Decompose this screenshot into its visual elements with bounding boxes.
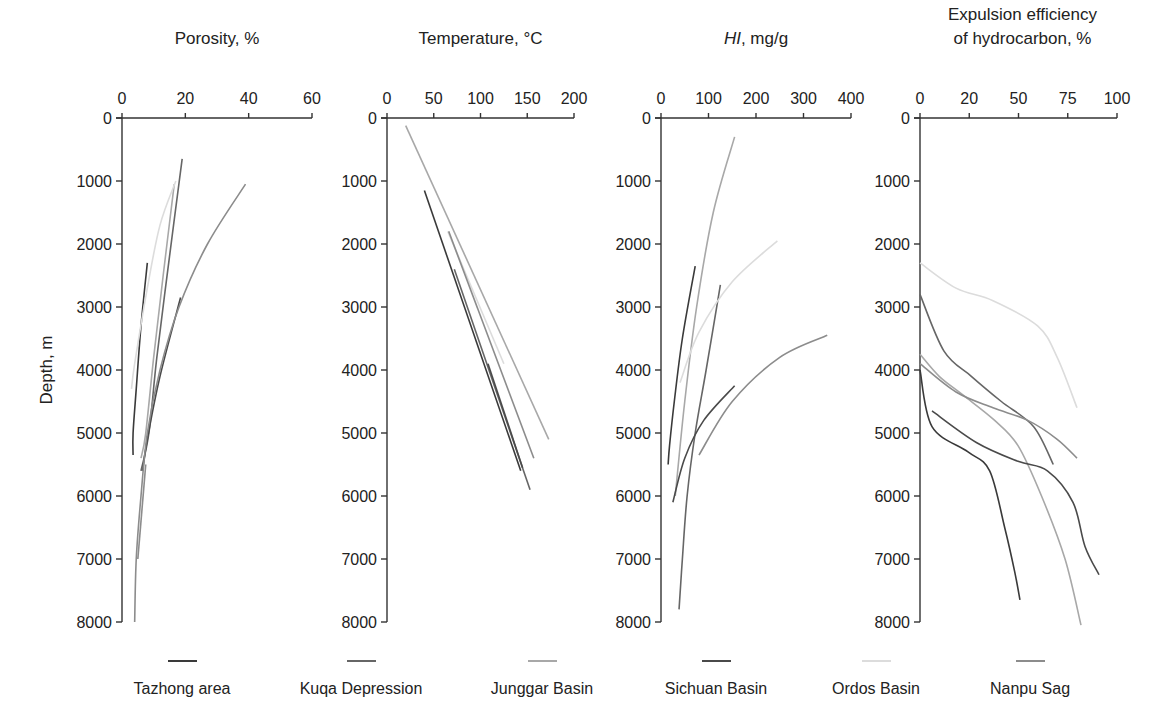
x-tick-label: 400 xyxy=(838,90,865,107)
x-tick-label: 20 xyxy=(176,90,194,107)
y-tick-label: 0 xyxy=(103,110,112,127)
y-tick-label: 0 xyxy=(642,110,651,127)
x-tick-label: 50 xyxy=(1010,90,1028,107)
x-tick-label: 150 xyxy=(514,90,541,107)
expulsion-efficiency-panel: Expulsion efficiencyof hydrocarbon, %020… xyxy=(874,5,1130,631)
x-tick-label: 40 xyxy=(240,90,258,107)
y-tick-label: 0 xyxy=(901,110,910,127)
legend-label: Junggar Basin xyxy=(491,680,593,697)
y-tick-label: 6000 xyxy=(76,488,112,505)
y-tick-label: 3000 xyxy=(341,299,377,316)
y-axis-label: Depth, m xyxy=(37,336,56,405)
panel-title: Temperature, °C xyxy=(419,29,543,48)
y-tick-label: 5000 xyxy=(874,425,910,442)
y-tick-label: 2000 xyxy=(76,236,112,253)
porosity-panel: Porosity, %02040600100020003000400050006… xyxy=(76,29,321,631)
legend-item-junggar-basin: Junggar Basin xyxy=(491,661,593,697)
x-tick-label: 200 xyxy=(743,90,770,107)
y-tick-label: 5000 xyxy=(341,425,377,442)
y-tick-label: 8000 xyxy=(874,614,910,631)
temperature-panel: Temperature, °C0501001502000100020003000… xyxy=(341,29,587,631)
y-tick-label: 1000 xyxy=(76,173,112,190)
y-tick-label: 3000 xyxy=(874,299,910,316)
series-line-sichuan-basin xyxy=(673,386,735,503)
legend-item-ordos-basin: Ordos Basin xyxy=(832,661,920,697)
legend-label: Tazhong area xyxy=(134,680,231,697)
series-line-junggar-basin xyxy=(406,126,549,440)
y-tick-label: 7000 xyxy=(76,551,112,568)
hi-panel: HI, mg/g01002003004000100020003000400050… xyxy=(615,29,864,631)
y-tick-label: 2000 xyxy=(615,236,651,253)
y-tick-label: 1000 xyxy=(341,173,377,190)
series-line-nanpu-sag xyxy=(920,364,1077,459)
y-tick-label: 6000 xyxy=(874,488,910,505)
x-tick-label: 0 xyxy=(657,90,666,107)
y-tick-label: 4000 xyxy=(341,362,377,379)
x-tick-label: 100 xyxy=(695,90,722,107)
depth-profile-chart: Depth, m Porosity, %02040600100020003000… xyxy=(0,0,1164,727)
panel-title: Porosity, % xyxy=(175,29,260,48)
y-tick-label: 4000 xyxy=(874,362,910,379)
x-tick-label: 75 xyxy=(1059,90,1077,107)
legend-item-tazhong-area: Tazhong area xyxy=(134,661,231,697)
panel-title: of hydrocarbon, % xyxy=(954,29,1092,48)
series-line-ordos-basin xyxy=(680,241,777,383)
legend-label: Ordos Basin xyxy=(832,680,920,697)
y-tick-label: 1000 xyxy=(874,173,910,190)
x-tick-label: 200 xyxy=(561,90,588,107)
x-tick-label: 0 xyxy=(383,90,392,107)
y-tick-label: 0 xyxy=(368,110,377,127)
y-tick-label: 5000 xyxy=(615,425,651,442)
x-tick-label: 100 xyxy=(1104,90,1131,107)
y-tick-label: 8000 xyxy=(615,614,651,631)
series-line-tazhong-area xyxy=(424,190,520,470)
legend-label: Nanpu Sag xyxy=(990,680,1070,697)
x-tick-label: 60 xyxy=(303,90,321,107)
x-tick-label: 0 xyxy=(118,90,127,107)
series-line-ordos-basin xyxy=(920,263,1077,408)
y-tick-label: 2000 xyxy=(874,236,910,253)
y-tick-label: 5000 xyxy=(76,425,112,442)
x-tick-label: 100 xyxy=(467,90,494,107)
y-tick-label: 7000 xyxy=(341,551,377,568)
legend: Tazhong areaKuqa DepressionJunggar Basin… xyxy=(134,661,1071,697)
y-tick-label: 8000 xyxy=(341,614,377,631)
y-tick-label: 7000 xyxy=(874,551,910,568)
y-tick-label: 8000 xyxy=(76,614,112,631)
legend-item-sichuan-basin: Sichuan Basin xyxy=(665,661,767,697)
x-tick-label: 50 xyxy=(425,90,443,107)
legend-item-nanpu-sag: Nanpu Sag xyxy=(990,661,1070,697)
y-tick-label: 3000 xyxy=(76,299,112,316)
legend-item-kuqa-depression: Kuqa Depression xyxy=(300,661,423,697)
y-tick-label: 4000 xyxy=(76,362,112,379)
series-line-junggar-basin xyxy=(920,354,1081,625)
y-tick-label: 6000 xyxy=(615,488,651,505)
y-tick-label: 1000 xyxy=(615,173,651,190)
legend-label: Sichuan Basin xyxy=(665,680,767,697)
series-line-junggar-basin xyxy=(675,137,734,496)
series-line-sichuan-basin xyxy=(932,411,1099,575)
x-tick-label: 0 xyxy=(916,90,925,107)
x-tick-label: 20 xyxy=(960,90,978,107)
y-tick-label: 3000 xyxy=(615,299,651,316)
series-line-nanpu-sag xyxy=(449,231,534,458)
y-tick-label: 7000 xyxy=(615,551,651,568)
y-tick-label: 6000 xyxy=(341,488,377,505)
series-line-nanpu-sag xyxy=(135,184,246,622)
legend-label: Kuqa Depression xyxy=(300,680,423,697)
series-line-kuqa-depression xyxy=(679,285,720,609)
series-line-junggar-basin xyxy=(141,184,174,458)
series-line-nanpu-sag xyxy=(699,335,827,455)
panel-title: HI, mg/g xyxy=(724,29,788,48)
panel-title: Expulsion efficiency xyxy=(948,5,1097,24)
x-tick-label: 300 xyxy=(790,90,817,107)
y-tick-label: 4000 xyxy=(615,362,651,379)
y-tick-label: 2000 xyxy=(341,236,377,253)
